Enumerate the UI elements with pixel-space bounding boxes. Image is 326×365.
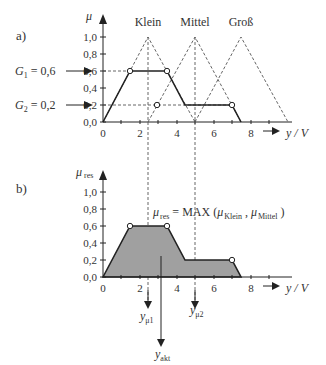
xb-tick-8: 8 bbox=[248, 282, 254, 294]
g2-label: G2 = 0,2 bbox=[15, 98, 55, 114]
y-tick-1.0: 1,0 bbox=[83, 31, 97, 43]
max-formula: μres = MAX (μKlein , μMittel ) bbox=[152, 205, 285, 221]
yb-tick-1.0: 1,0 bbox=[83, 186, 97, 198]
y-axis-label: μ bbox=[85, 9, 92, 23]
y-tick-0.4: 0,4 bbox=[83, 82, 97, 94]
y-axis-arrow-icon bbox=[99, 14, 107, 24]
x-tick-4: 4 bbox=[174, 127, 180, 139]
x-axis-arrow-icon bbox=[272, 127, 280, 135]
y-axis-b-arrow-icon bbox=[99, 170, 107, 180]
mf-klein bbox=[103, 37, 195, 122]
xb-tick-0: 0 bbox=[100, 282, 106, 294]
result-area bbox=[103, 226, 241, 277]
x-axis-label: y / V bbox=[285, 126, 310, 140]
yb-tick-0.6: 0,6 bbox=[83, 220, 97, 232]
intersection-markers bbox=[127, 68, 234, 107]
xb-tick-2: 2 bbox=[137, 282, 143, 294]
xb-axis-arrow-icon bbox=[272, 282, 280, 290]
yb-tick-0.8: 0,8 bbox=[83, 203, 97, 215]
xb-tick-4: 4 bbox=[174, 282, 180, 294]
x-tick-8: 8 bbox=[248, 127, 254, 139]
g1-label: G1 = 0,6 bbox=[15, 64, 55, 80]
panel-a-label: a) bbox=[16, 28, 26, 43]
clipped-result-line bbox=[103, 71, 241, 122]
set-label-mittel: Mittel bbox=[180, 15, 210, 29]
panel-b-label: b) bbox=[16, 181, 27, 196]
yb-tick-0.2: 0,2 bbox=[83, 254, 97, 266]
y-mu1-label: yμ1 bbox=[139, 309, 154, 325]
fuzzy-defuzzification-diagram: a) μ 0,0 0,2 0,4 0,6 0,8 1,0 bbox=[0, 0, 326, 365]
set-label-gross: Groß bbox=[229, 15, 254, 29]
y-tick-0.8: 0,8 bbox=[83, 48, 97, 60]
mf-mittel bbox=[148, 37, 241, 122]
panel-b: b) μres 0,0 0,2 0,4 0,6 bbox=[16, 165, 310, 363]
y-akt-label: yakt bbox=[154, 347, 171, 363]
y-akt-arrow-icon bbox=[157, 339, 165, 347]
mf-gross bbox=[195, 37, 288, 122]
y-mu1-arrow-icon bbox=[144, 301, 152, 309]
yb-tick-0.4: 0,4 bbox=[83, 237, 97, 249]
x-tick-0: 0 bbox=[100, 127, 106, 139]
yb-tick-0: 0,0 bbox=[83, 271, 97, 283]
xb-tick-6: 6 bbox=[211, 282, 217, 294]
set-label-klein: Klein bbox=[135, 15, 162, 29]
xb-axis-label: y / V bbox=[285, 281, 310, 295]
y-tick-0: 0,0 bbox=[83, 116, 97, 128]
x-tick-2: 2 bbox=[137, 127, 143, 139]
y-axis-b-label: μres bbox=[75, 165, 93, 180]
x-tick-6: 6 bbox=[211, 127, 217, 139]
